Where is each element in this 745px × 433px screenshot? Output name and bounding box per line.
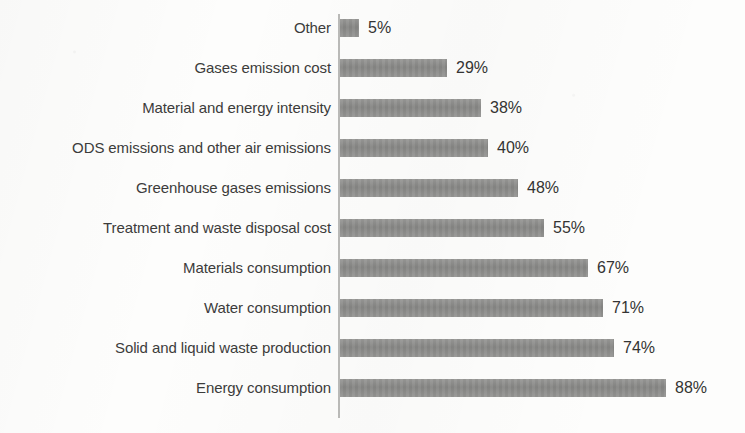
bar-texture [340,99,481,117]
category-label: Other [294,8,331,48]
bar [340,379,666,397]
bar [340,139,488,157]
category-label: Gases emission cost [195,48,331,88]
category-label: Greenhouse gases emissions [136,168,331,208]
chart-row: Other5% [0,8,745,48]
value-label: 55% [553,208,585,248]
bar-texture [340,259,588,277]
value-label: 48% [527,168,559,208]
chart-row: Solid and liquid waste production74% [0,328,745,368]
bar-texture [340,139,488,157]
value-label: 74% [623,328,655,368]
bar [340,259,588,277]
value-label: 38% [490,88,522,128]
bar [340,179,518,197]
value-label: 29% [456,48,488,88]
bar [340,19,359,37]
value-label: 71% [612,288,644,328]
bar [340,59,447,77]
category-label: Solid and liquid waste production [115,328,331,368]
chart-row: Gases emission cost29% [0,48,745,88]
chart-row: Greenhouse gases emissions48% [0,168,745,208]
chart-row: ODS emissions and other air emissions40% [0,128,745,168]
category-label: Water consumption [204,288,331,328]
bar-texture [340,19,359,37]
bar-texture [340,59,447,77]
bar-texture [340,219,544,237]
category-label: Treatment and waste disposal cost [103,208,331,248]
value-label: 5% [368,8,391,48]
chart-row: Treatment and waste disposal cost55% [0,208,745,248]
bar-texture [340,179,518,197]
bar [340,299,603,317]
category-label: Materials consumption [183,248,331,288]
bar [340,339,614,357]
chart-row: Energy consumption88% [0,368,745,408]
category-label: Material and energy intensity [142,88,331,128]
category-label: Energy consumption [196,368,331,408]
bar [340,99,481,117]
chart-row: Material and energy intensity38% [0,88,745,128]
plot-area: Other5%Gases emission cost29%Material an… [0,0,745,433]
bar-texture [340,379,666,397]
value-label: 88% [675,368,707,408]
bar-texture [340,339,614,357]
chart-row: Water consumption71% [0,288,745,328]
chart-row: Materials consumption67% [0,248,745,288]
bar-chart: Other5%Gases emission cost29%Material an… [0,0,745,433]
bar-texture [340,299,603,317]
value-label: 40% [497,128,529,168]
bar [340,219,544,237]
value-label: 67% [597,248,629,288]
category-label: ODS emissions and other air emissions [72,128,331,168]
